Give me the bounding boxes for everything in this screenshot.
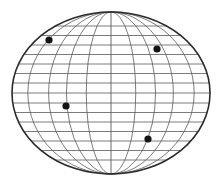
data-point-point-4 (144, 135, 151, 142)
data-points (45, 36, 160, 142)
data-point-point-3 (62, 102, 69, 109)
globe-svg (0, 0, 221, 184)
data-point-point-1 (45, 36, 52, 43)
globe-diagram (0, 0, 221, 184)
data-point-point-2 (153, 45, 160, 52)
